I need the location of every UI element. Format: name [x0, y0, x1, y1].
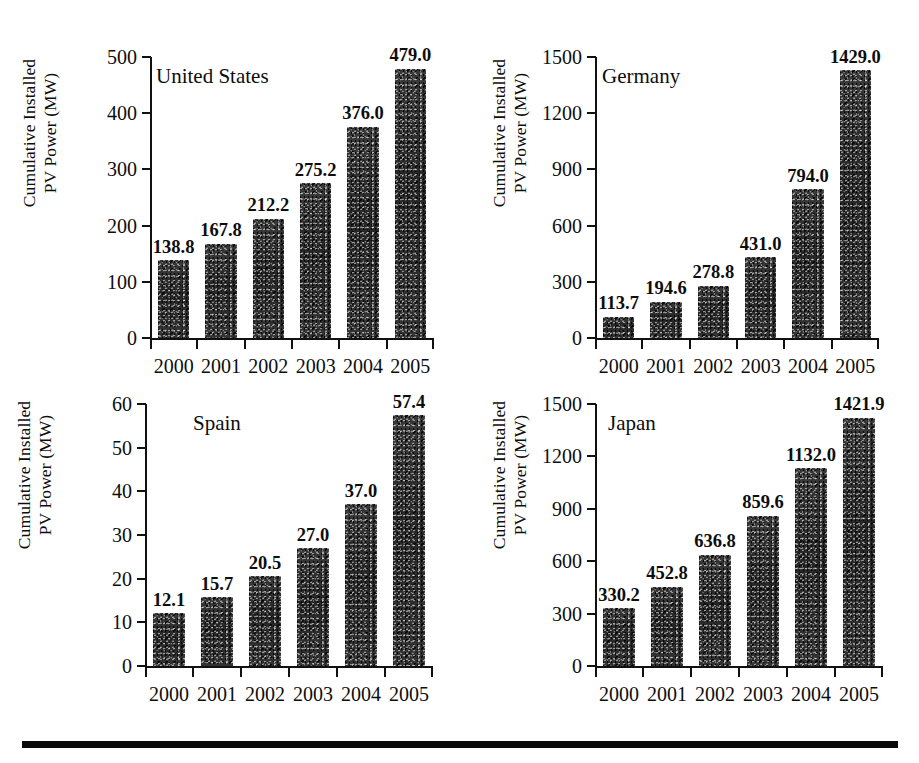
- y-axis-tick: [587, 560, 596, 562]
- y-axis-tick-label: 60: [112, 394, 132, 414]
- x-axis-tick-label: 2002: [248, 356, 288, 376]
- y-axis-tick-label: 900: [552, 159, 582, 179]
- y-axis-tick-label: 300: [552, 271, 582, 291]
- y-axis-tick: [142, 112, 151, 114]
- y-axis-tick: [587, 455, 596, 457]
- x-axis-tick: [877, 339, 879, 349]
- y-axis-tick-label: 1500: [542, 47, 582, 67]
- y-axis-caption-spain: Cumulative Installed PV Power (MW): [14, 370, 56, 580]
- bar: 212.2: [253, 219, 284, 338]
- y-axis-caption-line1: Cumulative Installed: [489, 28, 510, 238]
- y-axis-tick: [137, 621, 146, 623]
- x-axis-tick-label: 2003: [741, 356, 781, 376]
- x-axis-tick-label: 2004: [343, 356, 383, 376]
- bar: 431.0: [745, 257, 776, 338]
- x-axis-tick: [690, 667, 692, 677]
- x-axis-tick-label: 2000: [599, 356, 639, 376]
- y-axis-tick-label: 300: [107, 159, 137, 179]
- y-axis-caption-germany: Cumulative Installed PV Power (MW): [489, 28, 531, 238]
- x-axis-tick: [689, 339, 691, 349]
- bar: 794.0: [792, 189, 823, 338]
- y-axis-tick-label: 300: [552, 603, 582, 623]
- x-axis-tick-label: 2003: [293, 684, 333, 704]
- x-axis-tick-label: 2005: [835, 356, 875, 376]
- x-axis-tick: [244, 339, 246, 349]
- bar: 27.0: [297, 548, 329, 666]
- bar: 15.7: [201, 597, 233, 666]
- x-axis-tick: [786, 667, 788, 677]
- y-axis-tick: [587, 281, 596, 283]
- x-axis-tick: [831, 339, 833, 349]
- x-axis-tick-label: 2004: [341, 684, 381, 704]
- y-axis-tick-label: 600: [552, 215, 582, 235]
- bar-value-label: 37.0: [345, 482, 377, 501]
- bar-value-label: 452.8: [646, 564, 688, 583]
- x-axis-tick-label: 2000: [154, 356, 194, 376]
- x-axis-tick: [432, 339, 434, 349]
- x-axis-tick: [783, 339, 785, 349]
- x-axis-tick: [386, 339, 388, 349]
- bar: 452.8: [651, 587, 683, 666]
- x-axis-tick: [291, 339, 293, 349]
- bar: 37.0: [345, 504, 377, 666]
- bar-value-label: 1421.9: [834, 395, 885, 414]
- x-axis-tick: [431, 667, 433, 677]
- bar-value-label: 12.1: [153, 591, 185, 610]
- bar: 57.4: [393, 415, 425, 666]
- bar-value-label: 376.0: [342, 104, 384, 123]
- bar-value-label: 275.2: [295, 161, 337, 180]
- bar: 636.8: [699, 555, 731, 666]
- x-axis-tick-label: 2001: [647, 684, 687, 704]
- y-axis-tick-label: 200: [107, 215, 137, 235]
- bar-value-label: 212.2: [248, 196, 290, 215]
- bar: 278.8: [698, 286, 729, 338]
- y-axis-tick-label: 400: [107, 103, 137, 123]
- x-axis-tick-label: 2003: [743, 684, 783, 704]
- y-axis-tick-label: 0: [122, 656, 132, 676]
- x-axis-tick-label: 2005: [839, 684, 879, 704]
- x-axis-tick: [642, 667, 644, 677]
- x-axis-tick: [145, 667, 147, 677]
- y-axis-caption-line1: Cumulative Installed: [19, 28, 40, 238]
- y-axis-line: [595, 57, 597, 338]
- y-axis-caption-united-states: Cumulative Installed PV Power (MW): [19, 28, 61, 238]
- x-axis-tick: [150, 339, 152, 349]
- y-axis-tick-label: 1200: [542, 103, 582, 123]
- bar-value-label: 57.4: [393, 393, 425, 412]
- bar: 1421.9: [843, 418, 875, 666]
- bar: 138.8: [158, 260, 189, 338]
- x-axis-tick-label: 2005: [389, 684, 429, 704]
- y-axis-tick: [137, 578, 146, 580]
- x-axis-tick: [738, 667, 740, 677]
- y-axis-tick: [587, 56, 596, 58]
- x-axis-tick: [641, 339, 643, 349]
- y-axis-caption-japan: Cumulative Installed PV Power (MW): [489, 370, 531, 580]
- plot-area-spain: 010203040506012.1200015.7200120.5200227.…: [145, 404, 433, 666]
- x-axis-tick-label: 2004: [791, 684, 831, 704]
- x-axis-tick: [288, 667, 290, 677]
- plot-area-japan: 030060090012001500330.22000452.82001636.…: [595, 404, 883, 666]
- x-axis-tick: [736, 339, 738, 349]
- x-axis-tick-label: 2002: [695, 684, 735, 704]
- y-axis-caption-line1: Cumulative Installed: [489, 370, 510, 580]
- y-axis-caption-line2: PV Power (MW): [510, 370, 531, 580]
- x-axis-tick-label: 2001: [201, 356, 241, 376]
- bar-value-label: 1429.0: [830, 48, 881, 67]
- bar: 194.6: [650, 302, 681, 338]
- y-axis-tick: [142, 56, 151, 58]
- y-axis-tick-label: 1200: [542, 446, 582, 466]
- plot-area-united-states: 0100200300400500138.82000167.82001212.22…: [150, 57, 434, 338]
- y-axis-caption-line2: PV Power (MW): [40, 28, 61, 238]
- x-axis-tick: [881, 667, 883, 677]
- bar-value-label: 1132.0: [786, 446, 836, 465]
- bar-value-label: 194.6: [645, 279, 687, 298]
- x-axis-tick-label: 2000: [599, 684, 639, 704]
- y-axis-tick: [142, 281, 151, 283]
- y-axis-tick: [142, 225, 151, 227]
- y-axis-tick-label: 0: [572, 656, 582, 676]
- y-axis-tick: [142, 168, 151, 170]
- y-axis-tick-label: 10: [112, 612, 132, 632]
- bar-value-label: 636.8: [694, 532, 736, 551]
- bar-value-label: 138.8: [153, 238, 195, 257]
- y-axis-caption-line1: Cumulative Installed: [14, 370, 35, 580]
